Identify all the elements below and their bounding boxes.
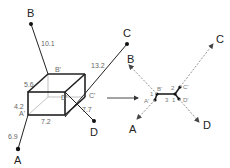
right-corner-a: A'	[144, 98, 149, 104]
right-label-a: A	[129, 123, 137, 135]
right-length-c: 2	[171, 85, 175, 91]
length-a: 6.9	[8, 133, 18, 140]
cube	[28, 74, 85, 115]
corner-c: C'	[89, 92, 95, 99]
corner-d: D'	[61, 94, 67, 101]
right-length-ab: 1	[150, 91, 154, 97]
edge-height: 4.2	[14, 103, 24, 110]
right-length-d: 1	[172, 97, 176, 103]
point-c-dot	[125, 42, 129, 46]
length-c: 13.2	[91, 62, 105, 69]
right-corner-b: B'	[157, 86, 162, 92]
label-a: A	[14, 154, 22, 166]
point-a-dot	[16, 147, 20, 151]
label-b: B	[27, 7, 34, 19]
right-label-d: D	[203, 119, 211, 131]
right-corner-c: C'	[183, 84, 188, 90]
point-d-dot	[92, 119, 96, 123]
length-d: 7.7	[82, 106, 92, 113]
right-label-c: C	[216, 33, 224, 45]
corner-b: B'	[55, 66, 61, 73]
label-c: C	[123, 27, 131, 39]
right-corner-d: D'	[183, 97, 188, 103]
edge-depth: 5.6	[24, 81, 34, 88]
right-label-b: B	[127, 53, 134, 65]
edge-width: 7.2	[41, 118, 51, 125]
corner-a: A'	[19, 110, 25, 117]
diagram-canvas: B A D C 10.1 13.2 7.7 6.9 5.6 4.2 7.2 B'…	[0, 0, 230, 168]
label-d: D	[90, 126, 98, 138]
point-b-dot	[29, 22, 33, 26]
simplified-network	[129, 44, 213, 122]
right-length-bc: 3	[165, 97, 169, 103]
length-b: 10.1	[41, 40, 55, 47]
